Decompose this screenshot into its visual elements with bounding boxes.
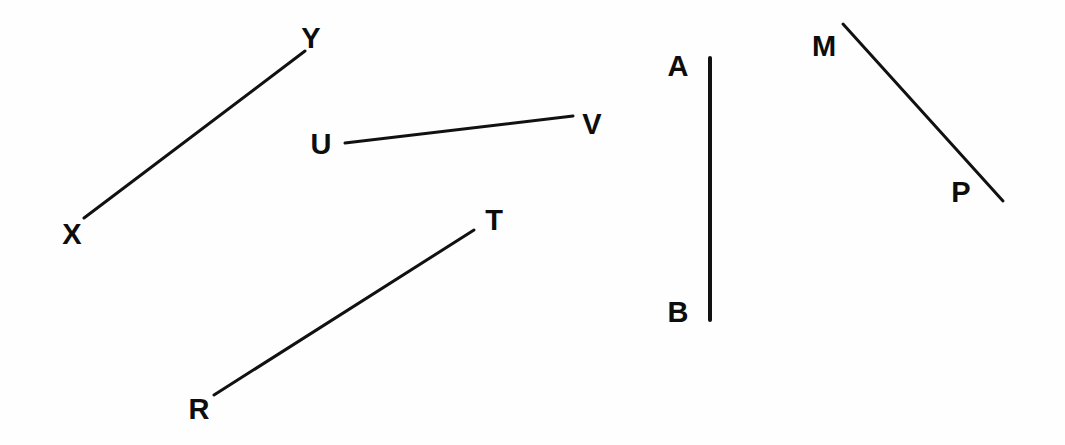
point-label-p: P (951, 178, 970, 207)
point-label-u: U (311, 130, 332, 159)
segment-uv (345, 116, 573, 143)
point-label-m: M (812, 32, 836, 61)
diagram-canvas: XYUVRTABMP (0, 0, 1065, 445)
segment-mp (843, 24, 1003, 201)
segments-group (84, 24, 1003, 395)
point-label-y: Y (301, 24, 320, 53)
point-label-t: T (485, 206, 503, 235)
segment-rt (214, 230, 474, 395)
point-label-a: A (668, 52, 689, 81)
segment-xy (84, 51, 305, 218)
point-label-x: X (62, 220, 81, 249)
point-label-v: V (582, 110, 601, 139)
point-label-r: R (189, 395, 210, 424)
point-label-b: B (668, 298, 689, 327)
line-segments-svg (0, 0, 1065, 445)
